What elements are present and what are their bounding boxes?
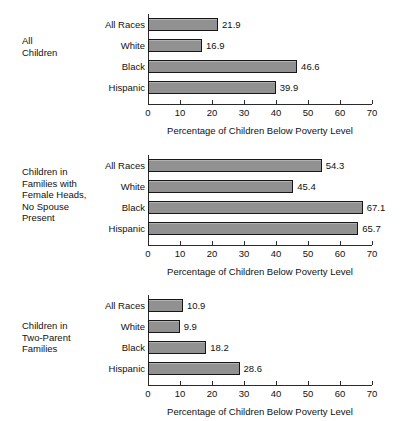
bar [148, 18, 218, 31]
bar-category-label: Black [122, 201, 145, 214]
x-axis-line [148, 385, 372, 386]
bar-category-label: All Races [105, 159, 145, 172]
x-axis-tick-label: 60 [327, 248, 353, 259]
bar-row: Black46.6 [148, 60, 372, 73]
panel-group-caption-line: Two-Parent [22, 332, 122, 344]
x-axis-tick [212, 100, 213, 104]
bar-row: All Races10.9 [148, 299, 372, 312]
x-axis-tick [276, 381, 277, 385]
x-axis-tick-label: 20 [199, 388, 225, 399]
panel-group-caption-line: No Spouse [22, 201, 122, 213]
x-axis-tick [372, 241, 373, 245]
x-axis-tick [148, 381, 149, 385]
x-axis-tick [244, 381, 245, 385]
x-axis-tick [340, 241, 341, 245]
x-axis-tick [340, 381, 341, 385]
x-axis-line [148, 104, 372, 105]
x-axis-tick-label: 30 [231, 248, 257, 259]
chart-panel: Children inTwo-ParentFamiliesAll Races10… [0, 281, 406, 421]
bar [148, 60, 297, 73]
x-axis-tick [340, 100, 341, 104]
bar-value-label: 10.9 [187, 299, 206, 313]
bar [148, 201, 363, 214]
panel-group-caption-line: Female Heads, [22, 189, 122, 201]
x-axis-tick [308, 381, 309, 385]
x-axis-tick-label: 0 [135, 248, 161, 259]
x-axis-tick-label: 70 [359, 107, 385, 118]
x-axis-tick [148, 100, 149, 104]
panel-group-caption: Children inTwo-ParentFamilies [22, 320, 122, 355]
x-axis-tick-label: 20 [199, 248, 225, 259]
x-axis-tick-label: 30 [231, 107, 257, 118]
x-axis-tick-label: 20 [199, 107, 225, 118]
bar-value-label: 18.2 [210, 341, 229, 355]
x-axis-tick [308, 100, 309, 104]
x-axis-tick [212, 381, 213, 385]
bar-category-label: White [121, 39, 145, 52]
x-axis-tick-label: 60 [327, 388, 353, 399]
bar-value-label: 67.1 [367, 201, 386, 215]
panel-group-caption-line: Children [22, 47, 122, 59]
panel-group-caption-line: Present [22, 212, 122, 224]
x-axis-tick-label: 40 [263, 248, 289, 259]
x-axis-tick [308, 241, 309, 245]
plot-area: All Races54.3White45.4Black67.1Hispanic6… [148, 141, 372, 281]
x-axis-tick [372, 381, 373, 385]
bar [148, 39, 202, 52]
bar-row: White9.9 [148, 320, 372, 333]
bar-category-label: Hispanic [109, 362, 145, 375]
bar [148, 222, 358, 235]
x-axis-tick [180, 381, 181, 385]
panel-group-caption: Children inFamilies withFemale Heads,No … [22, 166, 122, 224]
x-axis-tick-label: 0 [135, 107, 161, 118]
bar [148, 299, 183, 312]
x-axis-tick-label: 10 [167, 388, 193, 399]
x-axis-tick-label: 50 [295, 248, 321, 259]
x-axis-title: Percentage of Children Below Poverty Lev… [148, 266, 372, 277]
bar-category-label: Hispanic [109, 222, 145, 235]
x-axis-line [148, 245, 372, 246]
x-axis-tick [276, 241, 277, 245]
plot-area: All Races10.9White9.9Black18.2Hispanic28… [148, 281, 372, 421]
bar [148, 341, 206, 354]
x-axis-tick-label: 40 [263, 107, 289, 118]
bar [148, 180, 293, 193]
bar-value-label: 65.7 [362, 222, 381, 236]
plot-area: All Races21.9White16.9Black46.6Hispanic3… [148, 0, 372, 140]
bar [148, 81, 276, 94]
bar-row: All Races54.3 [148, 159, 372, 172]
bar-value-label: 9.9 [184, 320, 197, 334]
bar-category-label: Black [122, 341, 145, 354]
bar-category-label: Hispanic [109, 81, 145, 94]
chart-panel: Children inFamilies withFemale Heads,No … [0, 141, 406, 281]
bar-row: Hispanic39.9 [148, 81, 372, 94]
panel-group-caption: AllChildren [22, 35, 122, 58]
bar-row: Black67.1 [148, 201, 372, 214]
x-axis-tick-label: 10 [167, 248, 193, 259]
bar-category-label: All Races [105, 18, 145, 31]
x-axis-tick [212, 241, 213, 245]
bar-value-label: 46.6 [301, 60, 320, 74]
panel-group-caption-line: All [22, 35, 122, 47]
x-axis-tick [148, 241, 149, 245]
x-axis-tick-label: 10 [167, 107, 193, 118]
x-axis-tick [244, 241, 245, 245]
bar [148, 159, 322, 172]
bar-category-label: White [121, 180, 145, 193]
bar-row: Black18.2 [148, 341, 372, 354]
bar-row: Hispanic65.7 [148, 222, 372, 235]
x-axis-tick-label: 70 [359, 388, 385, 399]
x-axis-title: Percentage of Children Below Poverty Lev… [148, 125, 372, 136]
panel-group-caption-line: Children in [22, 320, 122, 332]
bar-value-label: 16.9 [206, 39, 225, 53]
bar-category-label: Black [122, 60, 145, 73]
x-axis-title: Percentage of Children Below Poverty Lev… [148, 406, 372, 417]
bar-value-label: 45.4 [297, 180, 316, 194]
bar-value-label: 28.6 [244, 362, 263, 376]
bar-value-label: 54.3 [326, 159, 345, 173]
bar-row: White45.4 [148, 180, 372, 193]
chart-panel: AllChildrenAll Races21.9White16.9Black46… [0, 0, 406, 140]
x-axis-tick-label: 50 [295, 107, 321, 118]
x-axis-tick [180, 241, 181, 245]
x-axis-tick [180, 100, 181, 104]
